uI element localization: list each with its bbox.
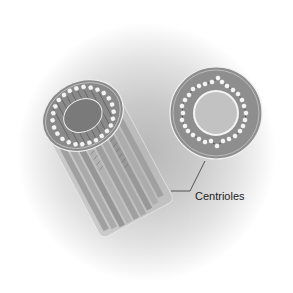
centriole-figure: Centrioles (0, 0, 293, 293)
label-leader-lines (171, 161, 205, 191)
centrioles-label: Centrioles (195, 190, 245, 202)
centriole-illustration (0, 0, 293, 293)
centriole-cross-section (170, 67, 262, 159)
centriole-cylinder (30, 66, 176, 240)
